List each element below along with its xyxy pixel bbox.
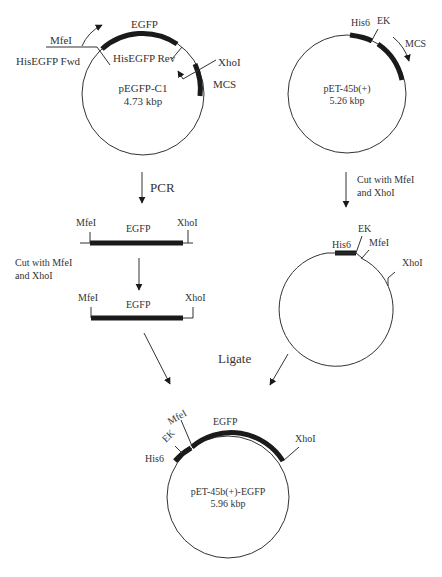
- plasmid-pet45b-egfp: His6 EK MfeI EGFP XhoI pET-45b(+)-EGFP 5…: [145, 407, 316, 558]
- step-cut-right-2: and XhoI: [357, 187, 395, 198]
- product-size: 5.96 kbp: [211, 498, 246, 509]
- step-pcr: PCR: [150, 180, 175, 195]
- product-mfei-label: MfeI: [166, 407, 189, 427]
- pcr-mfei-label: MfeI: [76, 217, 96, 228]
- product-egfp-label: EGFP: [213, 416, 238, 427]
- mcs-arc: [195, 64, 200, 96]
- cut-pet-his6-label: His6: [332, 239, 351, 250]
- pcr-xhoi-label: XhoI: [177, 217, 198, 228]
- product-his6-label: His6: [145, 453, 164, 464]
- cloning-diagram: EGFP MfeI HisEGFP Fwd HisEGFP Rev XhoI M…: [0, 0, 442, 577]
- ligate-arrow-right: [270, 354, 288, 385]
- pegfp-mfei-label: MfeI: [50, 34, 72, 46]
- ligate-arrow-left: [144, 333, 170, 384]
- pegfp-rev-primer-label: HisEGFP Rev: [113, 52, 176, 64]
- pegfp-egfp-label: EGFP: [131, 18, 158, 30]
- product-name: pET-45b(+)-EGFP: [191, 486, 266, 498]
- cut-pet-mfei-label: MfeI: [369, 237, 389, 248]
- pet-mcs-label: MCS: [405, 38, 426, 49]
- pcr-fragment: MfeI EGFP XhoI: [76, 217, 198, 243]
- plasmid-pet45b: His6 EK MCS pET-45b(+) 5.26 kbp: [288, 15, 426, 153]
- cut-xhoi-label: XhoI: [185, 292, 206, 303]
- pet-his6-label: His6: [351, 17, 370, 28]
- pegfp-fwd-primer-label: HisEGFP Fwd: [16, 55, 81, 67]
- cut-pet-ek-label: EK: [358, 223, 372, 234]
- pegfp-name: pEGFP-C1: [119, 82, 168, 94]
- pet-mcs-arc: [378, 44, 402, 80]
- cut-egfp-label: EGFP: [126, 299, 151, 310]
- pet-size: 5.26 kbp: [330, 95, 365, 106]
- plasmid-pet45b-cut: His6 EK MfeI XhoI: [279, 223, 422, 366]
- pcr-egfp-label: EGFP: [126, 223, 151, 234]
- step-cut-left-2: and XhoI: [15, 270, 53, 281]
- product-ek-label: EK: [160, 427, 178, 445]
- pegfp-mcs-label: MCS: [213, 78, 236, 90]
- pegfp-size: 4.73 kbp: [124, 95, 163, 107]
- step-cut-left-1: Cut with MfeI: [15, 257, 72, 268]
- his6-arc: [350, 35, 372, 41]
- cut-fragment: MfeI EGFP XhoI: [78, 292, 206, 318]
- pet-ek-label: EK: [377, 15, 391, 26]
- plasmid-pegfp-c1: EGFP MfeI HisEGFP Fwd HisEGFP Rev XhoI M…: [16, 18, 241, 155]
- cut-pet-xhoi-label: XhoI: [402, 257, 423, 268]
- pegfp-xhoi-label: XhoI: [218, 56, 241, 68]
- product-xhoi-label: XhoI: [295, 433, 316, 444]
- product-his6-arc: [175, 448, 191, 461]
- rev-primer-arrow: [178, 71, 183, 79]
- pet-name: pET-45b(+): [324, 83, 371, 95]
- egfp-gene-arc: [102, 33, 177, 49]
- step-cut-right-1: Cut with MfeI: [357, 174, 414, 185]
- fwd-primer-arrow: [82, 25, 102, 46]
- step-ligate: Ligate: [218, 351, 251, 366]
- cut-mfei-label: MfeI: [78, 292, 98, 303]
